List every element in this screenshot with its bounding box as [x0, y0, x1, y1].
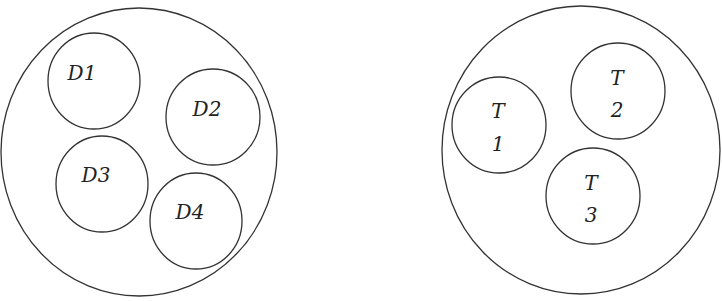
node-t3: T 3 — [546, 148, 640, 244]
node-label: D2 — [192, 97, 222, 121]
node-label-line1: T — [584, 171, 599, 195]
node-d1: D1 — [48, 33, 140, 129]
node-t1: T 1 — [452, 77, 546, 173]
node-d3: D3 — [56, 136, 148, 232]
outer-circle-d — [1, 8, 277, 296]
group-t: T 1 T 2 T 3 — [442, 6, 720, 294]
node-label-line2: 2 — [610, 98, 624, 122]
node-t2: T 2 — [571, 43, 665, 139]
node-label-line2: 3 — [585, 203, 598, 227]
node-label: D4 — [175, 200, 205, 224]
node-label-line1: T — [491, 99, 506, 123]
diagram-canvas: D1 D2 D3 D4 T 1 T 2 T 3 — [0, 0, 722, 301]
group-d: D1 D2 D3 D4 — [1, 8, 277, 296]
node-label: D1 — [67, 61, 97, 85]
node-label: D3 — [81, 163, 111, 187]
node-label-line2: 1 — [492, 132, 505, 156]
node-d2: D2 — [166, 69, 260, 165]
node-d4: D4 — [150, 173, 242, 269]
node-label-line1: T — [610, 66, 625, 90]
